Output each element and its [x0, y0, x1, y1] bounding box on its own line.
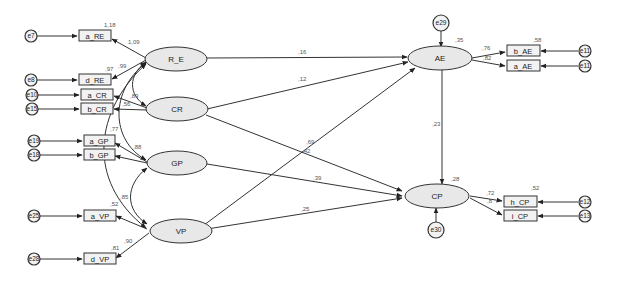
error-e25[interactable]: e25: [28, 210, 40, 222]
svg-text:e8: e8: [27, 76, 35, 83]
r2-b-ae: ,58: [533, 37, 542, 43]
svg-text:e28: e28: [29, 255, 40, 262]
cov-gp-vp-value: ,85: [120, 194, 129, 200]
latent-vp[interactable]: VP: [150, 219, 212, 243]
svg-text:a_VP: a_VP: [91, 212, 109, 221]
path-cr-cp-coef: ,42: [302, 148, 311, 154]
error-e18[interactable]: e18: [28, 149, 40, 161]
svg-text:a_RE: a_RE: [86, 32, 105, 41]
svg-text:e30: e30: [431, 226, 442, 233]
latent-gp[interactable]: GP: [147, 151, 207, 175]
svg-text:e10: e10: [27, 91, 38, 98]
svg-text:b_AE: b_AE: [514, 47, 532, 56]
svg-text:e19: e19: [29, 137, 40, 144]
structural-paths: [200, 57, 442, 229]
r2-h-cp: ,52: [531, 185, 540, 191]
svg-text:d_VP: d_VP: [91, 255, 109, 264]
error-e19[interactable]: e19: [28, 135, 40, 147]
latent-cp[interactable]: CP: [405, 184, 469, 208]
svg-text:a_CR: a_CR: [87, 91, 107, 100]
svg-text:e11: e11: [580, 62, 591, 69]
svg-text:e11: e11: [580, 47, 591, 54]
r2-a-re: 1,18: [104, 22, 116, 28]
svg-text:e25: e25: [29, 212, 40, 219]
path-cr-ae: [207, 62, 408, 109]
svg-text:b_GP: b_GP: [89, 151, 108, 160]
latent-cr[interactable]: CR: [146, 97, 208, 121]
svg-text:h_CP: h_CP: [511, 198, 530, 207]
indicator-a-cr[interactable]: a_CR: [81, 89, 113, 100]
path-vp-cp-coef: ,25: [301, 206, 310, 212]
indicator-b-gp[interactable]: b_GP: [84, 149, 115, 160]
indicator-d-vp[interactable]: d_VP: [84, 253, 116, 264]
loading-cp-hcp: ,72: [486, 190, 495, 196]
loading-ae-bae: ,76: [482, 45, 491, 51]
svg-text:e29: e29: [436, 19, 447, 26]
latent-cp-label: CP: [431, 192, 442, 201]
svg-text:a_GP: a_GP: [89, 137, 108, 146]
latent-ae-label: AE: [435, 54, 446, 63]
loading-re-are: 1,09: [128, 39, 140, 45]
latent-ae[interactable]: AE: [408, 46, 472, 70]
indicator-i-cp[interactable]: i_CP: [504, 210, 537, 221]
path-re-ae-coef: ,16: [298, 49, 307, 55]
error-e11-b-ae[interactable]: e11: [579, 45, 591, 57]
error-e15[interactable]: e15: [26, 103, 38, 115]
svg-text:e15: e15: [27, 105, 38, 112]
indicator-a-ae[interactable]: a_AE: [507, 60, 540, 71]
cov-gp-vp: [131, 168, 148, 224]
error-e8[interactable]: e8: [25, 74, 37, 86]
indicator-a-vp[interactable]: a_VP: [84, 210, 116, 221]
svg-text:d_RE: d_RE: [86, 76, 105, 85]
loading-cr-acr: ,89: [130, 93, 139, 99]
r2-d-vp: ,81: [111, 245, 120, 251]
path-vp-cp: [207, 198, 402, 229]
path-gp-cp-coef: ,39: [313, 175, 322, 181]
cov-re-cr: [133, 62, 147, 106]
indicator-a-gp[interactable]: a_GP: [84, 135, 115, 146]
latent-vp-label: VP: [176, 227, 187, 236]
r2-a-gp: ,77: [110, 126, 119, 132]
path-ae-cp-coef: ,23: [432, 121, 441, 127]
latent-gp-label: GP: [171, 159, 183, 168]
indicator-d-re[interactable]: d_RE: [79, 74, 111, 85]
latent-re[interactable]: R_E: [145, 47, 207, 71]
path-re-ae: [207, 57, 407, 58]
error-e28[interactable]: e28: [28, 253, 40, 265]
indicator-h-cp[interactable]: h_CP: [504, 196, 537, 207]
error-e30[interactable]: e30: [428, 222, 444, 238]
svg-text:i_CP: i_CP: [512, 212, 528, 221]
svg-text:a_AE: a_AE: [514, 62, 532, 71]
sem-path-diagram: R_E CR GP VP AE CP a_RE d_RE a_CR b_CR a…: [0, 0, 618, 283]
svg-text:e7: e7: [27, 32, 35, 39]
latent-cr-label: CR: [171, 105, 183, 114]
indicator-b-ae[interactable]: b_AE: [507, 45, 540, 56]
r2-ae: ,35: [455, 37, 464, 43]
latent-re-label: R_E: [168, 55, 184, 64]
indicator-b-cr[interactable]: b_CR: [81, 103, 113, 114]
path-vp-ae-coef: ,69: [306, 139, 315, 145]
r2-cp: ,28: [451, 176, 460, 182]
indicator-a-re[interactable]: a_RE: [79, 30, 111, 41]
loading-gp-agp: ,88: [133, 144, 142, 150]
error-e7[interactable]: e7: [25, 30, 37, 42]
loading-cp-icp: ,8: [487, 198, 493, 204]
svg-text:e13: e13: [580, 212, 591, 219]
svg-text:e12: e12: [580, 198, 591, 205]
r2-a-vp: ,52: [110, 201, 119, 207]
svg-text:b_CR: b_CR: [87, 105, 107, 114]
svg-text:e18: e18: [29, 151, 40, 158]
error-e12[interactable]: e12: [579, 196, 591, 208]
error-e10[interactable]: e10: [26, 89, 38, 101]
loading-vp-dvp: ,90: [124, 238, 133, 244]
loading-re-dre: ,99: [118, 63, 127, 69]
path-cr-ae-coef: ,12: [298, 76, 307, 82]
error-e11-a-ae[interactable]: e11: [579, 60, 591, 72]
error-e29[interactable]: e29: [433, 15, 449, 31]
error-e13[interactable]: e13: [579, 210, 591, 222]
loading-cr-bcr: ,56: [122, 101, 131, 107]
r2-d-re: ,97: [105, 66, 114, 72]
loading-ae-aae: ,82: [483, 55, 492, 61]
